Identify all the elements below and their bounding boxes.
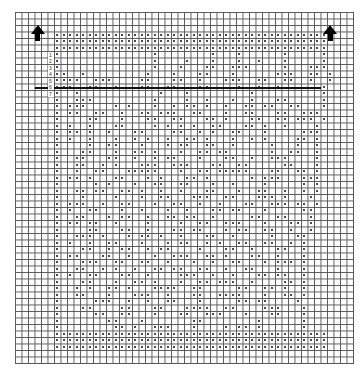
row-number-label: 5: [48, 78, 54, 84]
filled-block: [115, 333, 117, 335]
filled-block: [284, 47, 286, 49]
filled-block: [245, 203, 247, 205]
row-number-label: 2: [48, 58, 54, 64]
filled-block: [323, 99, 325, 101]
filled-block: [206, 268, 208, 270]
filled-block: [310, 216, 312, 218]
filled-block: [141, 190, 143, 192]
filled-block: [89, 99, 91, 101]
filled-block: [154, 268, 156, 270]
filled-block: [206, 177, 208, 179]
filled-block: [63, 346, 65, 348]
filled-block: [180, 47, 182, 49]
filled-block: [128, 255, 130, 257]
filled-block: [154, 281, 156, 283]
filled-block: [141, 47, 143, 49]
filled-block: [102, 190, 104, 192]
filled-block: [89, 47, 91, 49]
filled-block: [89, 125, 91, 127]
filled-block: [284, 190, 286, 192]
filled-block: [219, 151, 221, 153]
filled-block: [245, 333, 247, 335]
filled-block: [310, 229, 312, 231]
row-number-label: 7: [48, 91, 54, 97]
filled-block: [206, 281, 208, 283]
filled-block: [206, 73, 208, 75]
filled-block: [167, 216, 169, 218]
filled-block: [141, 34, 143, 36]
filled-block: [115, 320, 117, 322]
filled-block: [154, 346, 156, 348]
filled-block: [76, 268, 78, 270]
filled-block: [232, 47, 234, 49]
filled-block: [323, 86, 325, 88]
filled-block: [271, 177, 273, 179]
filled-block: [297, 34, 299, 36]
filled-block: [284, 164, 286, 166]
filled-block: [219, 47, 221, 49]
filled-block: [232, 99, 234, 101]
filled-block: [154, 151, 156, 153]
heavy-rule-line: [35, 87, 321, 89]
filled-block: [89, 333, 91, 335]
filled-block: [115, 268, 117, 270]
filled-block: [141, 320, 143, 322]
filled-block: [115, 177, 117, 179]
filled-block: [193, 320, 195, 322]
filled-block: [219, 164, 221, 166]
filled-block: [63, 47, 65, 49]
filled-block: [89, 242, 91, 244]
filled-block: [206, 47, 208, 49]
filled-block: [63, 34, 65, 36]
filled-block: [180, 242, 182, 244]
filled-block: [180, 333, 182, 335]
filled-block: [245, 125, 247, 127]
filled-block: [271, 242, 273, 244]
filled-block: [76, 34, 78, 36]
chart-grid: [15, 12, 354, 364]
filled-block: [141, 294, 143, 296]
filled-block: [141, 281, 143, 283]
filled-block: [245, 346, 247, 348]
filled-block: [284, 73, 286, 75]
filled-block: [193, 229, 195, 231]
filled-block: [180, 203, 182, 205]
filled-block: [258, 190, 260, 192]
filled-block: [115, 47, 117, 49]
filled-block: [271, 47, 273, 49]
filled-block: [128, 34, 130, 36]
filled-block: [206, 307, 208, 309]
filled-block: [89, 229, 91, 231]
filled-block: [232, 73, 234, 75]
filled-block: [271, 203, 273, 205]
filled-block: [154, 255, 156, 257]
filled-block: [310, 112, 312, 114]
filled-block: [102, 203, 104, 205]
filled-block: [219, 242, 221, 244]
filled-block: [297, 151, 299, 153]
filled-block: [193, 307, 195, 309]
filled-block: [258, 216, 260, 218]
filled-block: [154, 307, 156, 309]
row-number-label: 4: [48, 71, 54, 77]
filled-block: [89, 34, 91, 36]
filled-block: [193, 34, 195, 36]
filled-block: [89, 151, 91, 153]
filled-block: [102, 346, 104, 348]
filled-block: [154, 34, 156, 36]
filled-block: [193, 177, 195, 179]
filled-block: [219, 125, 221, 127]
filled-block: [102, 34, 104, 36]
filled-block: [193, 47, 195, 49]
filled-block: [271, 333, 273, 335]
filled-block: [128, 333, 130, 335]
filled-block: [167, 47, 169, 49]
filled-block: [128, 190, 130, 192]
filled-block: [180, 229, 182, 231]
filled-block: [271, 346, 273, 348]
filled-block: [297, 47, 299, 49]
filled-block: [219, 333, 221, 335]
filled-block: [102, 255, 104, 257]
filled-block: [141, 242, 143, 244]
filled-block: [219, 281, 221, 283]
